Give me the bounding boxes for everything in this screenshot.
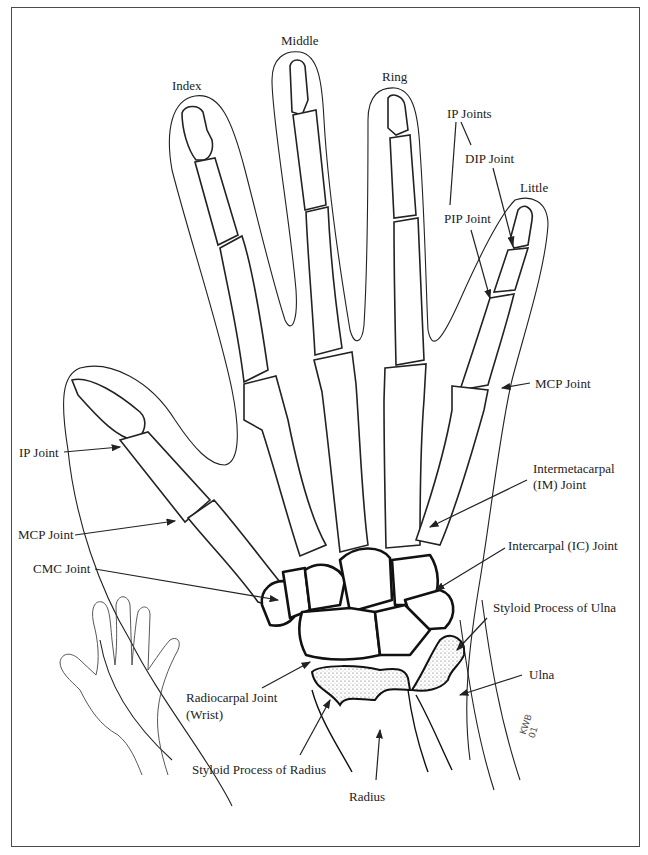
label-ring-finger: Ring — [382, 69, 407, 84]
label-radiocarpal-line2: (Wrist) — [186, 707, 223, 722]
label-index-finger: Index — [172, 78, 202, 93]
label-cmc-joint: CMC Joint — [33, 561, 90, 576]
label-middle-finger: Middle — [281, 33, 319, 48]
label-pip-joint: PIP Joint — [444, 211, 491, 226]
label-im-joint-line2: (IM) Joint — [533, 477, 586, 492]
finger-bones — [72, 60, 532, 603]
hand-skeleton-illustration — [0, 0, 648, 855]
label-mcp-joint-little: MCP Joint — [535, 376, 591, 391]
label-little-finger: Little — [520, 180, 548, 195]
label-ip-joint-thumb: IP Joint — [19, 445, 59, 460]
label-mcp-joint-thumb: MCP Joint — [18, 527, 74, 542]
reference-hand-sketch — [60, 597, 179, 775]
carpal-bones — [262, 548, 453, 659]
label-ulna: Ulna — [529, 667, 554, 682]
label-styloid-ulna: Styloid Process of Ulna — [493, 600, 616, 615]
label-im-joint-line1: Intermetacarpal — [533, 461, 615, 476]
label-ip-joints: IP Joints — [447, 106, 492, 121]
label-dip-joint: DIP Joint — [465, 151, 514, 166]
label-radiocarpal-line1: Radiocarpal Joint — [186, 690, 277, 705]
label-styloid-radius: Styloid Process of Radius — [192, 762, 326, 777]
label-ic-joint: Intercarpal (IC) Joint — [508, 538, 618, 553]
label-radius: Radius — [349, 789, 385, 804]
